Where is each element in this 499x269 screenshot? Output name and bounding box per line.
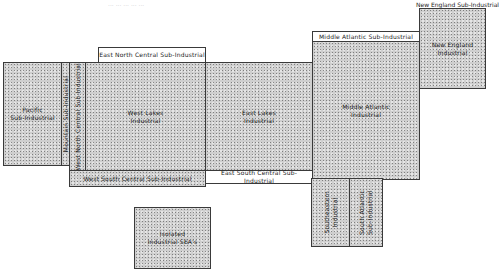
region-label: New England Industrial bbox=[432, 41, 474, 57]
region-label: East South Central Sub-Industrial bbox=[206, 169, 312, 185]
region-label: Isolated Industrial SEA's bbox=[148, 230, 198, 246]
region-label: West North Central Sub-Industrial bbox=[74, 63, 82, 170]
region-new-england-sub: New England Sub-Industrial bbox=[416, 1, 499, 8]
region-label: East North Central Sub-Industrial bbox=[99, 51, 205, 59]
region-east-south-central: East South Central Sub-Industrial bbox=[205, 170, 313, 184]
title-fragment: ... ... ... ... ... bbox=[108, 0, 144, 7]
region-west-lakes: West Lakes Industrial bbox=[85, 62, 206, 171]
region-label: East Lakes Industrial bbox=[242, 109, 276, 125]
region-label: West Lakes Industrial bbox=[128, 109, 164, 125]
region-east-lakes: East Lakes Industrial bbox=[205, 62, 313, 171]
region-west-north-central: West North Central Sub-Industrial bbox=[69, 62, 86, 171]
region-middle-atlantic: Middle Atlantic Industrial bbox=[312, 41, 420, 180]
region-west-south-central: West South Central Sub-Industrial bbox=[69, 170, 206, 187]
region-pacific: Pacific Sub-Industrial bbox=[3, 62, 62, 166]
region-label: Southeastern Industrial bbox=[323, 191, 339, 234]
region-isolated: Isolated Industrial SEA's bbox=[134, 207, 211, 269]
region-east-north-central: East North Central Sub-Industrial bbox=[98, 47, 206, 63]
region-label: South Atlantic Sub-Industrial bbox=[358, 190, 374, 235]
region-label: Middle Atlantic Industrial bbox=[342, 103, 390, 119]
region-southeastern: Southeastern Industrial bbox=[311, 178, 350, 247]
region-label: Pacific Sub-Industrial bbox=[10, 106, 55, 122]
region-south-atlantic-sub: South Atlantic Sub-Industrial bbox=[349, 178, 383, 247]
region-new-england: New England Industrial bbox=[419, 8, 486, 89]
region-label: West South Central Sub-Industrial bbox=[83, 175, 191, 183]
region-label: Middle Atlantic Sub-Industrial bbox=[319, 33, 413, 41]
